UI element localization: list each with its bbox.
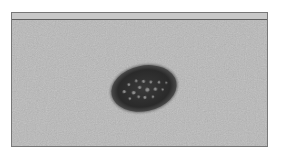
skin-lesion-image: [12, 20, 267, 146]
skin-photo: [12, 20, 267, 146]
frame-top-bar: [12, 13, 267, 20]
photo-frame: [11, 12, 268, 147]
